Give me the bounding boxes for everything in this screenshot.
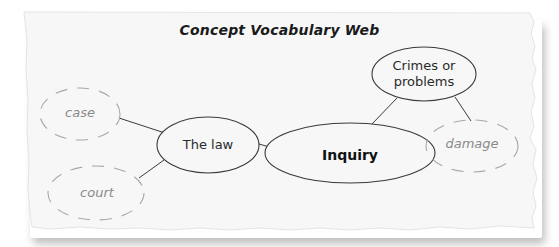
node-damage-label: damage	[445, 136, 498, 152]
node-crimes-label-line2: problems	[394, 74, 455, 90]
diagram-title: Concept Vocabulary Web	[0, 22, 559, 38]
node-inquiry-label: Inquiry	[322, 147, 378, 163]
node-case-label: case	[65, 105, 95, 121]
node-crimes-label-line1: Crimes or	[393, 58, 456, 74]
node-law-label: The law	[183, 137, 234, 153]
node-court-label: court	[80, 185, 114, 201]
